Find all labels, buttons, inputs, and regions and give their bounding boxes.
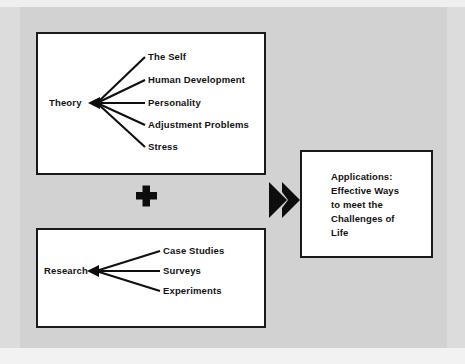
double-arrow-right-icon (269, 182, 300, 218)
concept-flow-diagram: Theory The Self Human Development Person… (0, 0, 465, 364)
diagram-page: Theory The Self Human Development Person… (0, 0, 465, 364)
research-box (37, 229, 265, 327)
research-branch-label-surveys: Surveys (163, 265, 201, 276)
applications-line-4: Challenges of (331, 213, 395, 224)
research-branch-label-experiments: Experiments (163, 285, 222, 296)
theory-branch-label-stress: Stress (148, 141, 178, 152)
theory-branch-label-adjustment-problems: Adjustment Problems (148, 119, 249, 130)
theory-branch-label-the-self: The Self (148, 51, 187, 62)
applications-line-2: Effective Ways (331, 185, 399, 196)
theory-branch-label-personality: Personality (148, 97, 201, 108)
research-root-label: Research (44, 265, 88, 276)
plus-icon (136, 186, 157, 207)
applications-line-5: Life (331, 227, 348, 238)
applications-line-1: Applications: (331, 171, 392, 182)
theory-branch-label-human-development: Human Development (148, 74, 246, 85)
theory-root-label: Theory (49, 97, 82, 108)
research-branch-label-case-studies: Case Studies (163, 245, 224, 256)
applications-line-3: to meet the (331, 199, 383, 210)
